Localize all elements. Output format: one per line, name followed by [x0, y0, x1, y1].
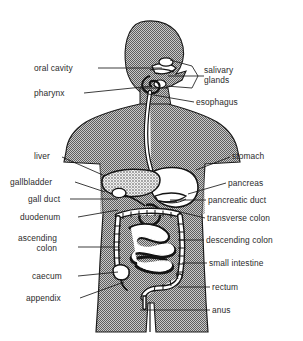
label-small-intestine: small intestine — [209, 259, 264, 269]
label-pancreatic-duct: pancreatic duct — [208, 196, 266, 206]
label-transverse-colon: transverse colon — [207, 214, 270, 224]
label-appendix: appendix — [26, 294, 61, 304]
label-gall-duct: gall duct — [28, 195, 60, 205]
label-gallbladder: gallbladder — [10, 178, 52, 188]
label-pancreas: pancreas — [228, 179, 263, 189]
label-anus: anus — [212, 306, 231, 316]
label-rectum: rectum — [212, 283, 238, 293]
diagram-canvas — [0, 0, 303, 341]
label-oral-cavity: oral cavity — [34, 64, 73, 74]
gallbladder-shape — [112, 188, 126, 197]
digestive-system-diagram: oral cavitypharynxlivergallbladdergall d… — [0, 0, 303, 341]
label-esophagus: esophagus — [196, 98, 238, 108]
label-descending-colon: descending colon — [206, 236, 273, 246]
label-caecum: caecum — [32, 272, 62, 282]
label-liver: liver — [34, 152, 50, 162]
liver-shape — [102, 169, 160, 197]
salivary-gland-upper-shape — [159, 58, 173, 66]
anus-shape — [143, 296, 146, 310]
label-stomach: stomach — [232, 152, 264, 162]
label-ascending-colon: ascending colon — [18, 234, 57, 253]
label-duodenum: duodenum — [20, 213, 60, 223]
label-pharynx: pharynx — [34, 89, 65, 99]
label-salivary-glands: salivary glands — [204, 66, 233, 85]
